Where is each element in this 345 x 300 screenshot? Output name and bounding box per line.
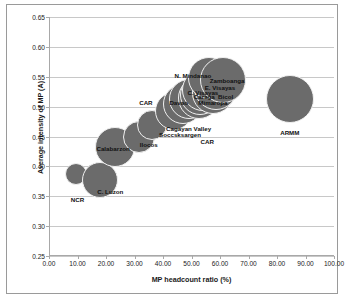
x-tick-mark xyxy=(277,256,278,259)
point-label-car: CAR xyxy=(200,138,213,145)
point-label-ncr: NCR xyxy=(71,196,84,203)
x-tick-label: 100.00 xyxy=(324,260,344,267)
x-tick-mark xyxy=(192,256,193,259)
x-tick-label: 0.00 xyxy=(43,260,56,267)
point-label-mimaropa: Mimaropa xyxy=(198,98,227,105)
y-tick-mark xyxy=(46,17,49,18)
x-tick-label: 30.00 xyxy=(126,260,143,267)
y-tick-label: 0.40 xyxy=(32,163,45,170)
x-tick-mark xyxy=(106,256,107,259)
plot-area: 0.250.300.350.400.450.500.550.600.65 0.0… xyxy=(49,17,334,256)
y-tick-label: 0.65 xyxy=(32,14,45,21)
x-tick-mark xyxy=(306,256,307,259)
y-tick-label: 0.45 xyxy=(32,133,45,140)
point-label-n-mindanao: N. Mindanao xyxy=(175,71,212,78)
x-axis-title: MP headcount ratio (%) xyxy=(49,275,334,284)
point-label-calabarzon: Calabarzon xyxy=(96,145,129,152)
y-tick-label: 0.50 xyxy=(32,103,45,110)
gridline xyxy=(49,17,334,18)
x-tick-label: 10.00 xyxy=(69,260,86,267)
gridline xyxy=(49,226,334,227)
x-tick-mark xyxy=(49,256,50,259)
y-tick-label: 0.55 xyxy=(32,73,45,80)
point-label-c-luzon: C. Luzon xyxy=(97,188,123,195)
point-label-ilocos: Ilocos xyxy=(140,141,158,148)
point-label-armm: ARMM xyxy=(280,128,299,135)
x-tick-label: 20.00 xyxy=(98,260,115,267)
x-tick-label: 70.00 xyxy=(240,260,257,267)
point-label-zamboanga: Zamboanga xyxy=(210,76,245,83)
y-tick-mark xyxy=(46,166,49,167)
y-tick-mark xyxy=(46,196,49,197)
y-tick-mark xyxy=(46,77,49,78)
x-tick-mark xyxy=(334,256,335,259)
x-tick-label: 80.00 xyxy=(269,260,286,267)
chart-frame: Average intensity of MP (A) MP headcount… xyxy=(6,4,338,294)
y-tick-mark xyxy=(46,107,49,108)
gridline xyxy=(49,47,334,48)
bubble-armm xyxy=(266,75,314,123)
point-label-soccsksargen: Soccsksargen xyxy=(159,130,201,137)
y-tick-label: 0.35 xyxy=(32,193,45,200)
x-tick-mark xyxy=(135,256,136,259)
x-tick-label: 60.00 xyxy=(212,260,229,267)
y-tick-mark xyxy=(46,137,49,138)
y-tick-label: 0.25 xyxy=(32,253,45,260)
point-label-car: CAR xyxy=(139,98,152,105)
y-tick-label: 0.60 xyxy=(32,43,45,50)
x-tick-mark xyxy=(220,256,221,259)
y-tick-mark xyxy=(46,47,49,48)
x-tick-label: 90.00 xyxy=(297,260,314,267)
x-tick-mark xyxy=(249,256,250,259)
point-label-davao: Davao xyxy=(169,98,188,105)
x-tick-mark xyxy=(78,256,79,259)
gridline xyxy=(49,196,334,197)
y-tick-label: 0.30 xyxy=(32,223,45,230)
x-tick-mark xyxy=(163,256,164,259)
x-tick-label: 40.00 xyxy=(155,260,172,267)
y-tick-mark xyxy=(46,226,49,227)
x-tick-label: 50.00 xyxy=(183,260,200,267)
